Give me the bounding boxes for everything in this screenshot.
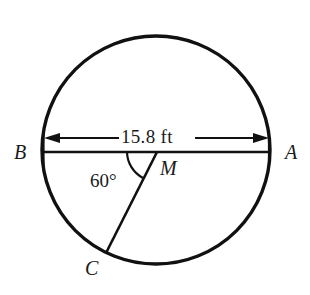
point-label-m: M (160, 158, 177, 178)
dimension-label-diameter: 15.8 ft (119, 127, 175, 146)
point-label-b: B (14, 142, 26, 162)
point-label-c: C (85, 258, 98, 278)
geometry-canvas (0, 0, 310, 295)
dimension-arrowhead-left (44, 133, 60, 143)
geometry-figure: B A M C 60° 15.8 ft (0, 0, 310, 295)
angle-arc-bmc (127, 152, 143, 178)
angle-label-60-degrees: 60° (90, 171, 117, 190)
main-circle (42, 36, 270, 264)
dimension-arrowhead-right (253, 133, 269, 143)
point-label-a: A (285, 142, 297, 162)
